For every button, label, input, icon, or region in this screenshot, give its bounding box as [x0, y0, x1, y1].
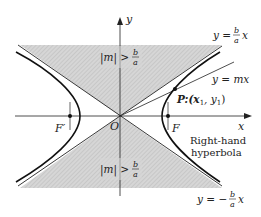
svg-text:|m| >: |m| > — [100, 51, 129, 65]
svg-text:b: b — [234, 26, 239, 35]
svg-text:a: a — [234, 36, 239, 45]
svg-text:y =: y = — [212, 29, 231, 41]
svg-text:a: a — [230, 200, 235, 209]
lower-asymptote-label: y = − b a x — [196, 190, 244, 209]
caption-line-1: Right-hand — [190, 135, 247, 146]
svg-text:b: b — [230, 190, 235, 199]
svg-text:a: a — [133, 170, 138, 179]
focus-left-point — [68, 114, 72, 118]
y-axis-label: y — [125, 13, 133, 26]
point-p — [173, 87, 177, 91]
x-axis-arrow-icon — [244, 113, 252, 119]
upper-region-label: |m| > b a — [100, 46, 142, 68]
svg-text:b: b — [133, 160, 138, 169]
focus-right-point — [166, 114, 170, 118]
caption-line-2: hyperbola — [191, 147, 242, 158]
focus-right-label: F — [171, 122, 180, 135]
focus-left-label: F′ — [54, 122, 66, 135]
lower-region-label: |m| > b a — [100, 158, 142, 180]
svg-text:y = −: y = − — [196, 193, 227, 205]
x-axis-label: x — [238, 120, 245, 133]
svg-text:a: a — [133, 58, 138, 67]
svg-text:x: x — [238, 193, 244, 205]
svg-text:x: x — [242, 29, 248, 41]
y-axis-arrow-icon — [117, 17, 123, 25]
svg-text:|m| >: |m| > — [100, 163, 129, 177]
origin-label: O — [110, 120, 119, 133]
line-y-mx-label: y = mx — [211, 73, 249, 85]
upper-asymptote-label: y = b a x — [212, 26, 248, 45]
point-p-label: P:(x1, y1) — [176, 93, 225, 107]
svg-text:b: b — [133, 48, 138, 57]
hyperbola-diagram: y x O F′ F P:(x1, y1) y = b a x y = mx y… — [0, 0, 261, 217]
